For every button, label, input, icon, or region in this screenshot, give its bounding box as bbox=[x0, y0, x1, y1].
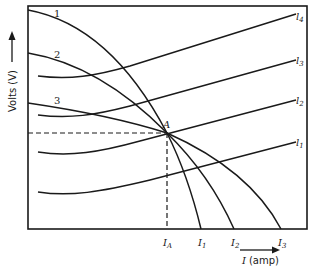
operating-point-label: A bbox=[162, 119, 170, 130]
curve-label-1: 1 bbox=[54, 8, 60, 19]
load-line-label-l4: l4 bbox=[296, 11, 304, 24]
x-label-IA: IA bbox=[162, 237, 172, 250]
plot-frame bbox=[28, 6, 307, 229]
load-line-label-l3: l3 bbox=[296, 55, 304, 68]
x-label-I1: I1 bbox=[197, 237, 206, 250]
vi-characteristic-diagram: 1 2 3 l4 l3 l2 l1 A IA I1 I2 I3 I(amp) V… bbox=[0, 0, 315, 268]
source-curve-2 bbox=[28, 53, 234, 229]
load-line-label-l2: l2 bbox=[296, 95, 304, 108]
y-axis-label-group: Volts (V) bbox=[7, 70, 18, 112]
x-axis-label: I(amp) bbox=[241, 255, 279, 266]
load-line-label-l1: l1 bbox=[296, 137, 304, 150]
curve-label-2: 2 bbox=[54, 49, 60, 60]
x-label-I3: I3 bbox=[277, 237, 287, 250]
x-label-I2: I2 bbox=[230, 237, 240, 250]
source-curve-3 bbox=[28, 103, 281, 229]
y-axis-arrow-icon bbox=[9, 31, 16, 40]
y-axis-label: Volts (V) bbox=[7, 70, 18, 112]
curve-label-3: 3 bbox=[54, 95, 60, 106]
